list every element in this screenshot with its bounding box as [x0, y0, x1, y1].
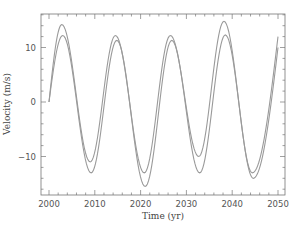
velocity-chart: 200020102020203020402050 −10010 Time (yr… [0, 0, 297, 227]
x-axis-ticks: 200020102020203020402050 [38, 14, 289, 209]
x-tick-label: 2000 [38, 199, 60, 209]
x-tick-label: 2050 [267, 199, 289, 209]
series-group [49, 21, 278, 186]
y-tick-label: −10 [18, 152, 36, 162]
y-axis-label: Velocity (m/s) [2, 73, 12, 136]
x-tick-label: 2040 [221, 199, 243, 209]
y-axis-ticks: −10010 [18, 15, 285, 189]
x-tick-label: 2020 [130, 199, 152, 209]
y-tick-label: 0 [31, 97, 36, 107]
x-tick-label: 2030 [176, 199, 198, 209]
y-tick-label: 10 [25, 43, 36, 53]
x-tick-label: 2010 [84, 199, 106, 209]
x-axis-label: Time (yr) [142, 211, 184, 221]
